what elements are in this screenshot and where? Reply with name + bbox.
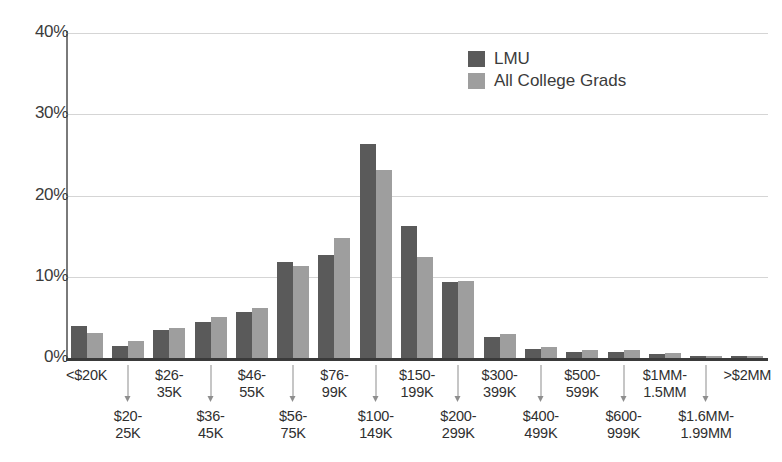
bar-group bbox=[314, 33, 355, 358]
x-axis-category: >$2MM bbox=[727, 361, 768, 462]
arrow-down-icon bbox=[536, 365, 545, 405]
legend-label-all-college-grads: All College Grads bbox=[494, 71, 626, 91]
bar-all-college-grads bbox=[706, 356, 722, 358]
bar-all-college-grads bbox=[169, 328, 185, 358]
arrow-down-icon bbox=[123, 365, 132, 405]
bar-lmu bbox=[608, 352, 624, 358]
bar-group bbox=[272, 33, 313, 358]
legend-swatch-lmu bbox=[468, 51, 485, 67]
arrow-down-icon bbox=[454, 365, 463, 405]
x-axis-category-labels: <$20K$20-25K$26-35K$36-45K$46-55K$56-75K… bbox=[66, 361, 768, 462]
bar-group bbox=[685, 33, 726, 358]
bar-all-college-grads bbox=[128, 341, 144, 358]
chart-legend: LMU All College Grads bbox=[468, 48, 626, 92]
arrow-down-icon bbox=[619, 365, 628, 405]
bar-group bbox=[107, 33, 148, 358]
y-tick-label-10: 10% bbox=[8, 266, 68, 286]
bar-all-college-grads bbox=[334, 238, 350, 358]
bar-group bbox=[396, 33, 437, 358]
household-income-distribution-chart: 0%10%20%30%40% LMU All College Grads <$2… bbox=[0, 0, 782, 462]
bar-lmu bbox=[277, 262, 293, 358]
bar-all-college-grads bbox=[293, 266, 309, 358]
bar-lmu bbox=[484, 337, 500, 358]
arrow-down-icon bbox=[289, 365, 298, 405]
bar-group bbox=[149, 33, 190, 358]
bar-lmu bbox=[442, 282, 458, 358]
bar-all-college-grads bbox=[582, 350, 598, 358]
bar-series-layer bbox=[66, 33, 768, 358]
bar-lmu bbox=[318, 255, 334, 358]
bar-all-college-grads bbox=[747, 356, 763, 358]
bar-all-college-grads bbox=[500, 334, 516, 358]
bar-lmu bbox=[566, 352, 582, 359]
bar-all-college-grads bbox=[541, 347, 557, 358]
bar-lmu bbox=[690, 356, 706, 358]
bar-lmu bbox=[401, 226, 417, 358]
bar-group bbox=[231, 33, 272, 358]
legend-item-all-college-grads[interactable]: All College Grads bbox=[468, 70, 626, 92]
bar-lmu bbox=[153, 330, 169, 358]
bar-lmu bbox=[525, 349, 541, 358]
y-tick-label-30: 30% bbox=[8, 103, 68, 123]
bar-all-college-grads bbox=[417, 257, 433, 358]
bar-all-college-grads bbox=[252, 308, 268, 358]
legend-label-lmu: LMU bbox=[494, 49, 530, 69]
bar-all-college-grads bbox=[376, 170, 392, 358]
arrow-down-icon bbox=[206, 365, 215, 405]
bar-lmu bbox=[360, 144, 376, 358]
y-tick-label-20: 20% bbox=[8, 185, 68, 205]
bar-group bbox=[355, 33, 396, 358]
x-axis-category-label: >$2MM bbox=[716, 367, 778, 384]
bar-group bbox=[644, 33, 685, 358]
bar-all-college-grads bbox=[624, 350, 640, 358]
bar-group bbox=[66, 33, 107, 358]
bar-all-college-grads bbox=[211, 317, 227, 358]
bar-all-college-grads bbox=[458, 281, 474, 358]
bar-lmu bbox=[731, 356, 747, 358]
arrow-down-icon bbox=[702, 365, 711, 405]
bar-lmu bbox=[649, 354, 665, 358]
legend-swatch-all-college-grads bbox=[468, 73, 485, 89]
y-tick-label-40: 40% bbox=[8, 22, 68, 42]
legend-item-lmu[interactable]: LMU bbox=[468, 48, 626, 70]
bar-lmu bbox=[112, 346, 128, 358]
bar-lmu bbox=[71, 326, 87, 359]
bar-all-college-grads bbox=[87, 333, 103, 358]
plot-area bbox=[66, 33, 768, 358]
bar-all-college-grads bbox=[665, 353, 681, 358]
bar-lmu bbox=[195, 322, 211, 358]
bar-lmu bbox=[236, 312, 252, 358]
arrow-down-icon bbox=[371, 365, 380, 405]
y-tick-label-0: 0% bbox=[8, 347, 68, 367]
bar-group bbox=[727, 33, 768, 358]
bar-group bbox=[190, 33, 231, 358]
